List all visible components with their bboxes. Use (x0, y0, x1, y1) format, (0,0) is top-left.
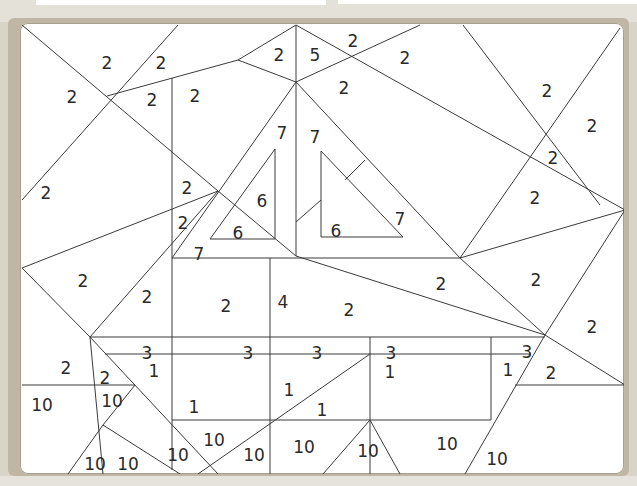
region-number-label: 10 (167, 445, 189, 465)
region-number-label: 6 (331, 221, 342, 241)
region-number-label: 2 (178, 213, 189, 233)
region-number-label: 3 (522, 342, 533, 362)
puzzle-line-art[interactable]: 2222225222776667722222222224222233333221… (20, 23, 624, 474)
region-number-label: 2 (546, 363, 557, 383)
region-number-label: 6 (233, 223, 244, 243)
region-number-label: 2 (531, 270, 542, 290)
region-number-label: 7 (194, 244, 205, 264)
region-number-label: 3 (386, 343, 397, 363)
region-number-label: 2 (274, 45, 285, 65)
region-number-label: 10 (486, 449, 508, 469)
region-number-label: 2 (587, 116, 598, 136)
region-number-label: 10 (101, 391, 123, 411)
region-number-label: 7 (277, 123, 288, 143)
region-number-label: 2 (339, 78, 350, 98)
region-number-label: 10 (357, 441, 379, 461)
region-number-label: 2 (221, 296, 232, 316)
region-number-label: 2 (142, 287, 153, 307)
region-number-label: 7 (310, 127, 321, 147)
region-number-label: 2 (542, 81, 553, 101)
region-number-label: 5 (310, 45, 321, 65)
region-number-label: 2 (344, 300, 355, 320)
region-number-label: 2 (102, 53, 113, 73)
region-number-label: 3 (142, 343, 153, 363)
region-number-label: 1 (149, 361, 160, 381)
region-number-label: 2 (147, 90, 158, 110)
region-number-label: 2 (100, 368, 111, 388)
region-number-label: 2 (41, 183, 52, 203)
region-number-label: 1 (284, 380, 295, 400)
top-panel-right (338, 0, 637, 4)
region-number-label: 2 (548, 148, 559, 168)
region-number-label: 3 (243, 343, 254, 363)
bottom-strip (0, 476, 637, 486)
region-number-label: 4 (278, 292, 289, 312)
region-number-label: 1 (385, 362, 396, 382)
region-number-label: 2 (182, 178, 193, 198)
top-panel-left (36, 0, 326, 5)
region-number-label: 2 (400, 48, 411, 68)
region-number-label: 1 (317, 400, 328, 420)
region-number-label: 10 (293, 437, 315, 457)
region-number-label: 10 (31, 395, 53, 415)
region-number-label: 2 (67, 87, 78, 107)
region-number-label: 10 (117, 454, 139, 474)
region-number-label: 6 (257, 191, 268, 211)
region-number-label: 10 (436, 434, 458, 454)
region-number-label: 1 (503, 360, 514, 380)
region-number-label: 2 (78, 271, 89, 291)
region-number-label: 7 (395, 209, 406, 229)
region-number-label: 1 (189, 397, 200, 417)
region-number-label: 2 (61, 358, 72, 378)
region-number-label: 2 (190, 86, 201, 106)
region-number-label: 2 (156, 53, 167, 73)
region-number-label: 2 (436, 274, 447, 294)
region-number-label: 10 (203, 430, 225, 450)
region-number-label: 2 (348, 31, 359, 51)
region-number-label: 3 (312, 343, 323, 363)
region-number-labels: 2222225222776667722222222224222233333221… (31, 31, 597, 474)
region-number-label: 10 (84, 454, 106, 474)
color-by-number-board[interactable]: 2222225222776667722222222224222233333221… (20, 23, 624, 474)
region-number-label: 10 (243, 445, 265, 465)
region-number-label: 2 (587, 317, 598, 337)
region-number-label: 2 (530, 188, 541, 208)
